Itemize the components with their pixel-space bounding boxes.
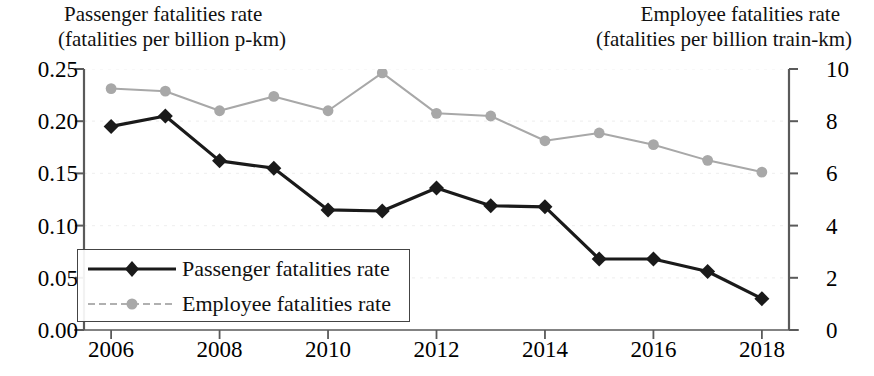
legend-label-employee: Employee fatalities rate	[182, 293, 391, 315]
legend: Passenger fatalities rate Employee fatal…	[77, 249, 410, 322]
x-tick-label: 2014	[522, 338, 568, 361]
legend-swatch-passenger	[86, 259, 178, 279]
legend-item-passenger[interactable]: Passenger fatalities rate	[78, 251, 409, 287]
legend-item-employee[interactable]: Employee fatalities rate	[78, 286, 409, 322]
x-tick-label: 2012	[414, 338, 460, 361]
legend-label-passenger: Passenger fatalities rate	[182, 258, 390, 280]
x-tick-label: 2006	[88, 338, 134, 361]
x-tick-label: 2008	[197, 338, 243, 361]
x-tick-label: 2010	[305, 338, 351, 361]
x-tick-label: 2016	[630, 338, 676, 361]
legend-swatch-employee	[86, 294, 178, 314]
x-tick-label: 2018	[739, 338, 785, 361]
dual-axis-line-chart: Passenger fatalities rate (fatalities pe…	[0, 0, 874, 376]
